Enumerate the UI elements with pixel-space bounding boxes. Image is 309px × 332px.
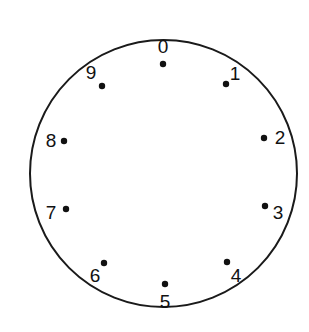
dial-position-8: 8 xyxy=(46,130,67,151)
dial-position-5: 5 xyxy=(160,281,171,312)
dial-positions: 0123456789 xyxy=(46,36,286,312)
position-dot xyxy=(223,81,229,87)
position-label: 8 xyxy=(46,130,57,151)
position-label: 0 xyxy=(158,36,169,57)
position-dot xyxy=(61,138,67,144)
position-label: 4 xyxy=(231,265,242,286)
dial-position-4: 4 xyxy=(224,259,242,286)
position-label: 7 xyxy=(46,202,57,223)
dial-position-2: 2 xyxy=(261,127,285,148)
position-dot xyxy=(101,260,107,266)
dial-position-9: 9 xyxy=(86,62,105,89)
position-label: 2 xyxy=(275,127,286,148)
position-dot xyxy=(99,83,105,89)
dial-diagram: 0123456789 xyxy=(0,0,309,332)
position-label: 3 xyxy=(273,202,284,223)
position-dot xyxy=(224,259,230,265)
position-dot xyxy=(160,61,166,67)
dial-position-1: 1 xyxy=(223,63,240,87)
position-label: 9 xyxy=(86,62,97,83)
dial-outline xyxy=(30,40,297,307)
position-dot xyxy=(262,203,268,209)
position-label: 6 xyxy=(90,265,101,286)
dial-position-7: 7 xyxy=(46,202,69,223)
position-label: 1 xyxy=(230,63,241,84)
position-dot xyxy=(162,281,168,287)
dial-position-0: 0 xyxy=(158,36,169,67)
position-dot xyxy=(63,206,69,212)
dial-position-6: 6 xyxy=(90,260,107,286)
position-dot xyxy=(261,135,267,141)
position-label: 5 xyxy=(160,291,171,312)
dial-position-3: 3 xyxy=(262,202,283,223)
